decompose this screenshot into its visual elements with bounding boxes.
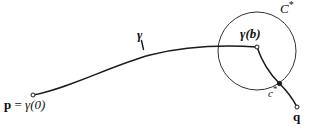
label-gamma-zero: γ(0) <box>25 97 45 112</box>
label-start-point: p = γ(0) <box>4 98 45 111</box>
label-gamma-b: γ(b) <box>240 27 261 40</box>
label-small-c-star-superscript: * <box>273 84 277 94</box>
label-gamma-curve: γ <box>137 28 142 41</box>
marker-point-gamma-b <box>255 45 259 49</box>
label-circle-c-star: C* <box>280 2 294 15</box>
label-end-point-q: q <box>293 110 300 123</box>
circle-c-star <box>218 12 296 90</box>
marker-point-c-star <box>277 81 281 85</box>
label-equals-symbol: = <box>11 97 25 112</box>
math-figure: p = γ(0) γ γ(b) C* c* q <box>0 0 311 127</box>
label-c-symbol: C <box>280 1 289 16</box>
label-c-star-superscript: * <box>289 0 294 10</box>
label-gamma-b-text: γ(b) <box>240 26 261 41</box>
figure-canvas <box>0 0 311 127</box>
label-intersection-c-star: c* <box>268 88 277 99</box>
